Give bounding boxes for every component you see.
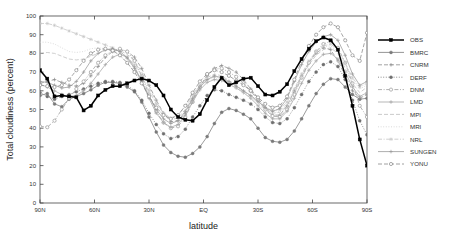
series-line: [40, 79, 367, 158]
data-point: [60, 108, 63, 111]
data-point: [227, 80, 231, 84]
data-point: [300, 58, 303, 61]
y-tick-label: 20: [29, 163, 36, 169]
data-point: [286, 138, 289, 141]
data-point: [315, 33, 318, 36]
data-point: [198, 145, 201, 148]
y-axis-title: Total cloudiness (percent): [5, 58, 15, 161]
data-point: [220, 76, 223, 79]
series-line: [40, 23, 367, 117]
data-point: [220, 67, 223, 70]
data-point: [293, 78, 296, 81]
data-point: [344, 74, 347, 77]
legend-label-derf: DERF: [410, 74, 427, 81]
data-point: [140, 82, 143, 85]
series-nrl: [38, 22, 369, 120]
plot-frame: [40, 16, 367, 203]
data-point: [213, 69, 216, 72]
y-tick-label: 60: [29, 88, 36, 94]
data-point: [89, 104, 92, 107]
data-point: [184, 156, 187, 159]
data-point: [249, 102, 252, 105]
data-point: [278, 104, 281, 107]
series-derf: [39, 60, 369, 140]
data-point: [389, 137, 393, 141]
data-point: [300, 63, 304, 67]
data-point: [307, 104, 310, 107]
data-point: [286, 117, 289, 120]
data-point: [249, 89, 252, 92]
data-point: [39, 94, 42, 97]
legend-label-yonu: YONU: [410, 160, 428, 167]
data-point: [97, 61, 100, 64]
data-point: [227, 71, 230, 74]
data-point: [140, 99, 143, 102]
data-point: [184, 128, 187, 131]
data-point: [97, 82, 100, 85]
data-point: [242, 99, 245, 102]
data-point: [227, 93, 230, 96]
data-point: [191, 119, 194, 122]
y-tick-label: 40: [29, 125, 36, 131]
data-point: [38, 125, 41, 128]
line-chart-svg: 010203040506070809010090N60N30NEQ30S60S9…: [0, 0, 470, 250]
data-point: [206, 94, 209, 97]
data-point: [133, 71, 136, 74]
series-line: [40, 62, 367, 139]
data-point: [75, 87, 78, 90]
data-point: [365, 91, 369, 95]
data-point: [329, 77, 332, 80]
data-point: [162, 94, 165, 97]
data-point: [307, 47, 310, 50]
x-tick-label: 30N: [143, 207, 154, 213]
legend-label-bmrc: BMRC: [410, 49, 429, 56]
data-point: [89, 38, 93, 42]
data-point: [39, 91, 42, 94]
data-point: [249, 76, 252, 79]
data-point: [351, 93, 354, 96]
data-point: [206, 135, 209, 138]
data-point: [365, 31, 368, 34]
data-point: [155, 123, 158, 126]
data-point: [169, 108, 172, 111]
data-point: [235, 81, 238, 84]
data-point: [46, 126, 49, 129]
data-point: [148, 112, 151, 115]
data-point: [82, 59, 85, 62]
data-point: [358, 59, 361, 62]
data-point: [133, 79, 136, 82]
data-point: [278, 141, 281, 144]
x-tick-label: 90S: [362, 207, 373, 213]
data-point: [227, 84, 230, 87]
data-point: [220, 71, 223, 74]
data-point: [169, 151, 172, 154]
data-point: [169, 117, 172, 120]
legend-label-nrl: NRL: [410, 136, 423, 143]
data-point: [46, 85, 49, 88]
data-point: [389, 162, 392, 165]
data-point: [60, 84, 63, 87]
data-point: [366, 133, 369, 136]
data-point: [148, 79, 151, 82]
x-tick-label: 30S: [253, 207, 264, 213]
data-point: [365, 115, 368, 118]
data-point: [155, 106, 158, 109]
data-point: [38, 84, 41, 87]
data-point: [227, 74, 230, 77]
data-point: [358, 119, 361, 122]
data-point: [343, 53, 347, 57]
data-point: [307, 59, 311, 63]
data-point: [155, 130, 158, 133]
data-point: [336, 26, 339, 29]
data-point: [351, 104, 354, 107]
data-point: [256, 96, 259, 99]
data-point: [60, 26, 64, 30]
data-point: [53, 24, 57, 28]
data-point: [264, 93, 267, 96]
data-point: [220, 111, 223, 114]
data-point: [126, 61, 129, 64]
data-point: [53, 98, 56, 101]
series-obs: [39, 36, 369, 167]
legend-label-sungen: SUNGEN: [410, 148, 436, 155]
data-point: [344, 86, 347, 89]
